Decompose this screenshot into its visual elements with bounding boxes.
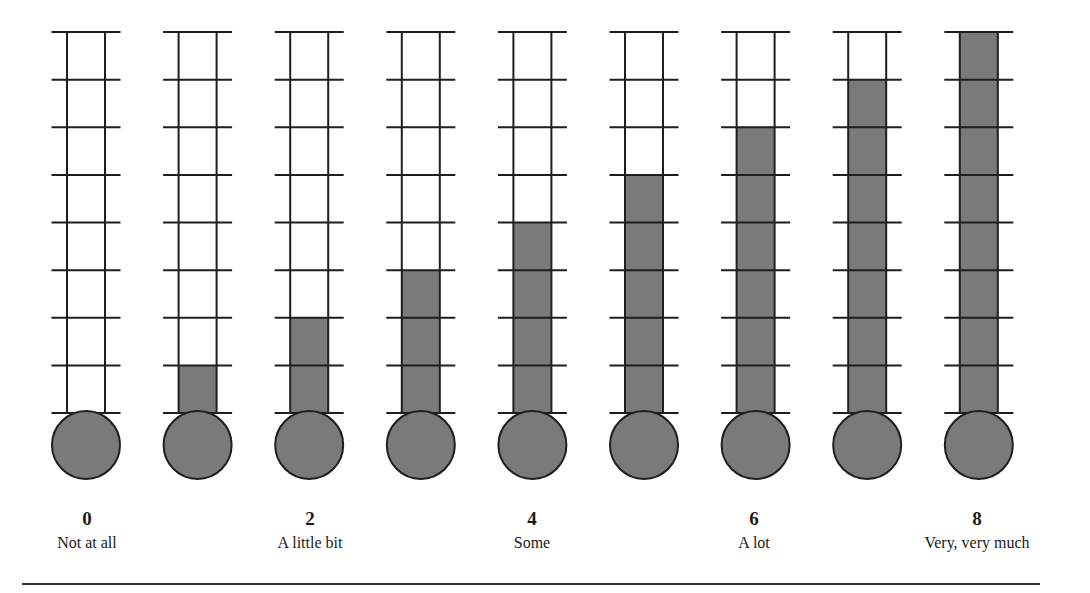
scale-anchor-4: 4 Some <box>432 509 632 553</box>
scale-anchor-6: 6 A lot <box>654 509 854 553</box>
scale-anchor-8: 8 Very, very much <box>877 509 1077 553</box>
feelings-thermometer-scale: 0 Not at all 2 A little bit 4 Some 6 A l… <box>0 0 1090 593</box>
scale-text: Some <box>432 533 632 553</box>
scale-number: 2 <box>210 509 410 529</box>
bottom-rule <box>22 583 1040 585</box>
scale-anchor-0: 0 Not at all <box>0 509 187 553</box>
thermometer-8 <box>0 0 1090 593</box>
scale-text: A lot <box>654 533 854 553</box>
scale-number: 6 <box>654 509 854 529</box>
scale-text: Very, very much <box>877 533 1077 553</box>
scale-anchor-2: 2 A little bit <box>210 509 410 553</box>
scale-number: 4 <box>432 509 632 529</box>
scale-number: 8 <box>877 509 1077 529</box>
bulb <box>945 411 1013 479</box>
scale-number: 0 <box>0 509 187 529</box>
scale-text: A little bit <box>210 533 410 553</box>
scale-text: Not at all <box>0 533 187 553</box>
